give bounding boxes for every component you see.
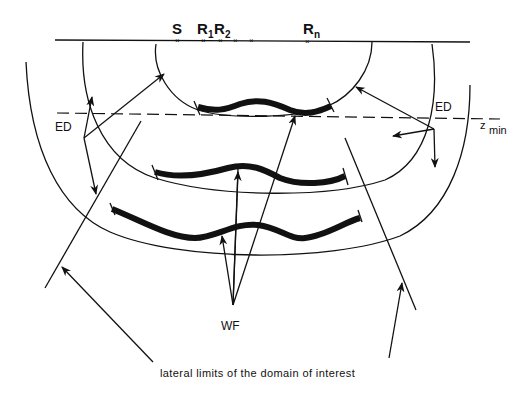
- left-lateral-limit: [45, 121, 141, 288]
- wf-label: WF: [221, 319, 240, 333]
- middle-wavefront-segment: [155, 166, 345, 183]
- svg-text:R: R: [303, 20, 314, 37]
- wf-arrows: [222, 116, 295, 305]
- caption-arrow-right: [389, 283, 402, 358]
- svg-text:×: ×: [218, 36, 223, 45]
- right-lateral-limit: [345, 138, 416, 310]
- svg-text:×: ×: [305, 37, 310, 46]
- svg-text:×: ×: [249, 36, 254, 45]
- svg-text:×: ×: [175, 36, 180, 45]
- svg-text:2: 2: [225, 29, 231, 40]
- z-min-label: z min: [480, 119, 507, 136]
- inner-wavefront-segment: [198, 101, 331, 113]
- svg-text:×: ×: [233, 36, 238, 45]
- svg-text:×: ×: [201, 36, 206, 45]
- ed-label-left: ED: [55, 120, 72, 134]
- z-min-line: [57, 113, 500, 119]
- surface-line: [55, 40, 470, 42]
- diagram-canvas: × × × × × × S R 1 R 2 R n: [0, 0, 532, 396]
- caption: lateral limits of the domain of interest: [160, 367, 355, 379]
- inner-wavefront-arc: [155, 42, 372, 116]
- svg-text:n: n: [314, 29, 320, 40]
- svg-text:R: R: [197, 20, 208, 37]
- right-ed-arrows: [356, 87, 435, 167]
- ed-label-right: ED: [435, 100, 452, 114]
- svg-text:z: z: [480, 119, 486, 131]
- svg-text:min: min: [489, 124, 507, 136]
- source-label: S: [172, 20, 182, 37]
- caption-arrow-left: [62, 267, 153, 362]
- left-ed-arrows: [84, 74, 164, 194]
- svg-text:R: R: [214, 20, 225, 37]
